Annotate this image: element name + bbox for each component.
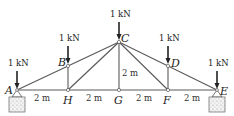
node-label-F: F [162,94,171,107]
node-label-C: C [121,32,130,45]
arrow-down-icon-A [15,71,20,89]
joints [16,40,219,91]
joint-H [66,88,69,91]
joint-E [216,89,219,92]
load-label-C: 1 kN [110,9,131,19]
dimension-GC: 2 m [122,68,138,78]
dimension-AH: 2 m [34,93,50,103]
joint-D [166,64,169,67]
joint-B [66,64,69,67]
node-label-E: E [219,85,228,98]
truss-members [17,42,217,90]
arrow-down-icon-D [166,46,171,64]
node-label-D: D [170,57,180,70]
node-label-B: B [57,56,66,69]
load-arrows [15,22,220,89]
dimension-FE: 2 m [184,93,200,103]
dimension-HG: 2 m [86,93,102,103]
node-label-H: H [62,94,73,107]
arrow-down-icon-E [215,71,220,89]
truss-diagram: 1 kN 1 kN 1 kN 1 kN 1 kN A B C D E F G H… [0,0,234,116]
member-CF [119,42,168,90]
node-label-A: A [4,84,13,97]
joint-A [16,89,19,92]
node-label-G: G [114,94,123,107]
load-label-D: 1 kN [159,33,180,43]
member-HC [68,42,119,90]
joint-F [166,88,169,91]
load-label-E: 1 kN [208,58,229,68]
load-label-A: 1 kN [8,58,29,68]
dimension-GF: 2 m [136,93,152,103]
arrow-down-icon-B [66,46,71,64]
joint-G [117,88,120,91]
load-label-B: 1 kN [59,33,80,43]
